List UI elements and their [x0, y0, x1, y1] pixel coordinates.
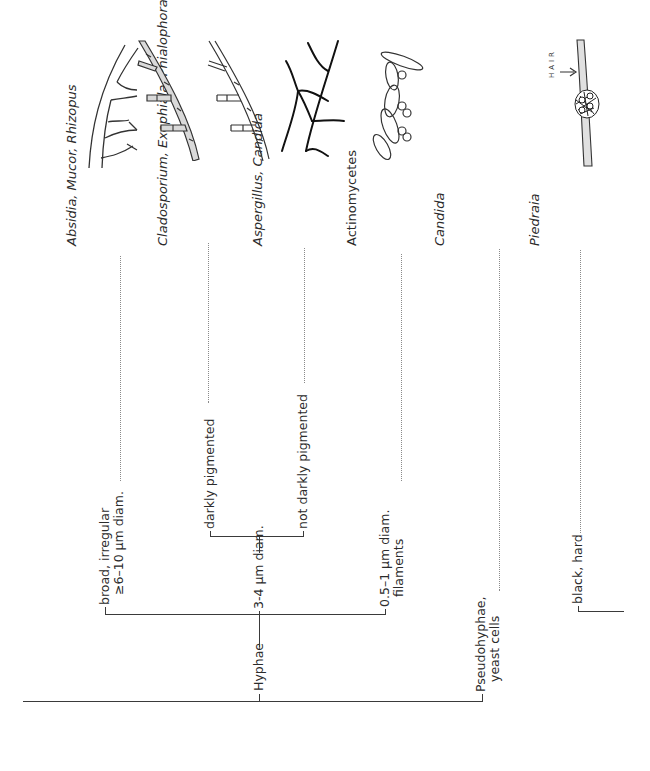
thin-label: 0.5–1 μm diam. filaments	[378, 510, 406, 607]
dark-leader	[208, 243, 209, 403]
broad-line2: ≥6–10 μm diam.	[112, 491, 126, 605]
notdark-tick	[303, 531, 304, 537]
hyphae-bracket	[105, 614, 385, 615]
hyphae-connector-2	[259, 615, 260, 647]
pseudo-leader	[499, 249, 500, 591]
pseudo-line2: yeast cells	[488, 596, 502, 692]
result-actinomycetes: Actinomycetes	[344, 150, 359, 246]
result-candida: Candida	[432, 193, 447, 246]
broad-leader	[120, 256, 121, 481]
broad-line1: broad, irregular	[97, 508, 112, 605]
hair-nodule-icon: HAIR	[540, 35, 600, 170]
hyphae-connector	[259, 694, 260, 702]
thin-tick	[385, 609, 386, 615]
broad-aseptate-hyphae-icon	[85, 40, 140, 170]
pseudo-tick	[482, 694, 483, 702]
pseudo-line1: Pseudohyphae,	[473, 596, 488, 692]
thin-line2: filaments	[392, 510, 406, 607]
result-absidia: Absidia, Mucor, Rhizopus	[64, 84, 79, 246]
result-piedraia: Piedraia	[527, 193, 542, 246]
pigmented-septate-hyphae-icon	[133, 36, 203, 161]
notdark-leader	[304, 248, 305, 383]
second-root-stem	[578, 611, 624, 612]
dark-tick	[210, 531, 211, 537]
black-tick	[578, 606, 579, 612]
dark-label: darkly pigmented	[203, 419, 217, 529]
key-diagram-canvas: Hyphae broad, irregular ≥6–10 μm diam. 3…	[0, 0, 650, 771]
medium-tick	[259, 611, 260, 615]
black-label: black, hard	[571, 534, 585, 604]
medium-connector	[259, 537, 260, 553]
medium-bracket	[210, 536, 303, 537]
pseudo-label: Pseudohyphae, yeast cells	[474, 596, 502, 692]
notdark-label: not darkly pigmented	[296, 394, 310, 529]
hair-label: HAIR	[548, 49, 556, 78]
thin-leader	[401, 254, 402, 481]
broad-tick	[105, 607, 106, 615]
pseudohyphae-yeast-icon	[362, 36, 432, 161]
root-stem	[23, 701, 482, 702]
black-leader	[580, 250, 581, 533]
broad-label: broad, irregular ≥6–10 μm diam.	[98, 491, 126, 605]
thin-branching-filaments-icon	[278, 36, 350, 161]
hyaline-septate-hyphae-icon	[203, 36, 273, 161]
thin-line1: 0.5–1 μm diam.	[377, 510, 392, 607]
hyphae-label: Hyphae	[252, 643, 266, 691]
